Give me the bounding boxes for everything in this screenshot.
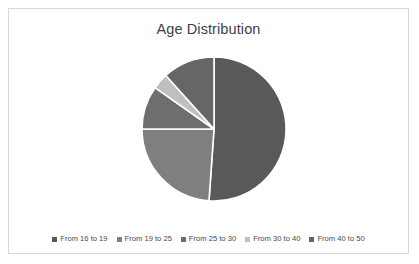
legend-item[interactable]: From 25 to 30 <box>181 235 236 243</box>
legend-item-label: From 25 to 30 <box>189 235 236 243</box>
chart-frame: Age Distribution From 16 to 19From 19 to… <box>8 8 409 254</box>
pie-slice[interactable] <box>142 129 214 201</box>
pie-chart <box>9 37 410 219</box>
legend-item[interactable]: From 16 to 19 <box>52 235 107 243</box>
legend-swatch-icon <box>245 237 250 242</box>
legend-item[interactable]: From 40 to 50 <box>309 235 364 243</box>
legend-item-label: From 19 to 25 <box>125 235 172 243</box>
pie-slice[interactable] <box>209 57 286 201</box>
legend-swatch-icon <box>181 237 186 242</box>
pie-plot-area <box>9 37 410 219</box>
chart-legend: From 16 to 19From 19 to 25From 25 to 30F… <box>9 235 408 243</box>
legend-swatch-icon <box>117 237 122 242</box>
chart-title: Age Distribution <box>9 21 408 37</box>
legend-item-label: From 30 to 40 <box>253 235 300 243</box>
legend-swatch-icon <box>309 237 314 242</box>
legend-item-label: From 40 to 50 <box>317 235 364 243</box>
legend-item[interactable]: From 19 to 25 <box>117 235 172 243</box>
legend-item-label: From 16 to 19 <box>60 235 107 243</box>
legend-swatch-icon <box>52 237 57 242</box>
legend-item[interactable]: From 30 to 40 <box>245 235 300 243</box>
